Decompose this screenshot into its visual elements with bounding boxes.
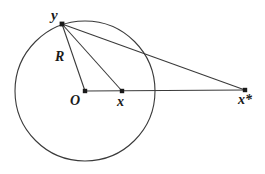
label-radius: R [55, 50, 64, 64]
point-marker-x [120, 89, 124, 93]
point-marker-y [60, 22, 65, 27]
segment-O-to-xstar [85, 90, 245, 91]
label-y: y [51, 8, 58, 23]
label-O: O [70, 94, 80, 108]
segment-y-to-xstar [62, 24, 245, 90]
segment-y-to-O [62, 24, 85, 91]
segment-y-to-x [62, 24, 122, 91]
label-x: x [117, 95, 124, 109]
label-x-star: x* [238, 93, 252, 107]
diagram-canvas [0, 0, 265, 174]
geometry-diagram: y R O x x* [0, 0, 265, 174]
point-marker-O [83, 89, 87, 93]
